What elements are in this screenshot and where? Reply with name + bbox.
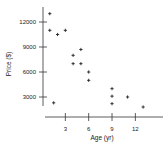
x-axis-title: Age (yr) (90, 134, 113, 142)
data-point (79, 62, 82, 65)
data-points (48, 12, 145, 109)
data-point (52, 101, 55, 104)
axes (43, 7, 163, 117)
y-axis-title: Price ($) (5, 52, 13, 77)
data-point (72, 62, 75, 65)
data-point (142, 105, 145, 108)
data-point (110, 87, 113, 90)
data-point (64, 29, 67, 32)
x-tick-label: 12 (132, 126, 139, 132)
x-tick-label: 6 (87, 126, 91, 132)
data-point (110, 102, 113, 105)
data-point (110, 95, 113, 98)
y-tick-label: 6000 (23, 69, 37, 75)
x-tick-label: 3 (64, 126, 68, 132)
data-point (87, 70, 90, 73)
x-tick-label: 9 (110, 126, 114, 132)
data-point (48, 29, 51, 32)
y-tick-label: 12000 (19, 19, 36, 25)
y-tick-label: 9000 (23, 44, 37, 50)
y-tick-label: 3000 (23, 94, 37, 100)
data-point (126, 95, 129, 98)
scatter-chart: 30006000900012000 36912 Price ($) Age (y… (0, 0, 167, 148)
x-ticks: 36912 (64, 113, 140, 132)
data-point (87, 79, 90, 82)
data-point (56, 33, 59, 36)
data-point (79, 48, 82, 51)
data-point (48, 12, 51, 15)
data-point (72, 54, 75, 57)
